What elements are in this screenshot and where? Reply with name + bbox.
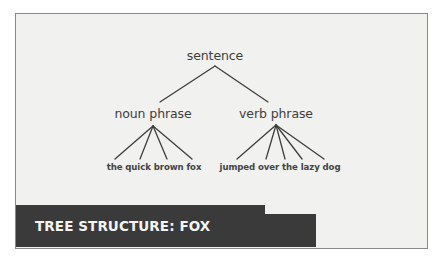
tree-edge bbox=[215, 66, 268, 102]
leaf-noun-phrase-words: the quick brown fox bbox=[107, 162, 202, 172]
tree-edge bbox=[153, 126, 167, 159]
node-verb-phrase: verb phrase bbox=[239, 106, 313, 121]
tree-edge bbox=[160, 66, 215, 102]
banner-step-notch bbox=[265, 205, 317, 214]
root-node-sentence: sentence bbox=[187, 48, 243, 63]
leaf-verb-phrase-words: jumped over the lazy dog bbox=[220, 162, 341, 172]
tree-edge bbox=[115, 126, 153, 159]
tree-edge bbox=[237, 125, 276, 159]
tree-edge bbox=[153, 126, 192, 159]
caption-title: TREE STRUCTURE: FOX bbox=[35, 218, 210, 234]
node-noun-phrase: noun phrase bbox=[114, 106, 191, 121]
